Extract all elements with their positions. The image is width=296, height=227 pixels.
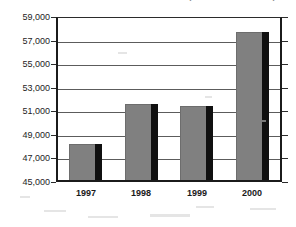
scan-artifact xyxy=(196,206,214,208)
right-axis-tick-mark xyxy=(282,41,288,42)
right-axis-tick-mark xyxy=(282,64,288,65)
y-axis-tick-label: 53,000 xyxy=(2,83,50,93)
x-axis-tick-label: 1997 xyxy=(62,188,110,198)
scan-artifact xyxy=(250,208,276,210)
scan-artifact xyxy=(205,96,212,98)
scan-artifact xyxy=(262,120,266,122)
scan-artifact xyxy=(20,196,30,198)
bar-series xyxy=(58,17,280,180)
x-axis-tick-label: 1998 xyxy=(117,188,165,198)
scan-artifact xyxy=(44,210,66,212)
y-axis-tick-mark xyxy=(51,111,56,112)
bar-face xyxy=(69,144,95,180)
y-axis-tick-mark xyxy=(51,17,56,18)
bar-chart-figure: (Million Dollars) 59,00057,00055,00053,0… xyxy=(0,0,296,227)
bar-face xyxy=(125,104,151,180)
right-axis-tick-mark xyxy=(282,111,288,112)
y-axis-tick-mark xyxy=(51,158,56,159)
y-axis-tick-mark xyxy=(51,135,56,136)
bar xyxy=(180,106,213,180)
y-axis-tick-label: 59,000 xyxy=(2,12,50,22)
y-axis-tick-label: 51,000 xyxy=(2,106,50,116)
y-axis-tick-label: 47,000 xyxy=(2,153,50,163)
x-axis: 1997199819992000 xyxy=(58,188,280,204)
y-axis-tick-mark xyxy=(51,182,56,183)
bar-shadow-edge xyxy=(95,144,102,180)
x-axis-tick-label: 1999 xyxy=(173,188,221,198)
scan-artifact xyxy=(150,214,190,217)
bar xyxy=(125,104,158,180)
y-axis-tick-label: 45,000 xyxy=(2,177,50,187)
right-axis-tick-mark xyxy=(282,158,288,159)
bar-face xyxy=(236,32,262,180)
bar xyxy=(236,32,269,180)
bar xyxy=(69,144,102,180)
y-axis-tick-label: 49,000 xyxy=(2,130,50,140)
scan-artifact xyxy=(88,216,118,218)
bar-face xyxy=(180,106,206,180)
bar-shadow-edge xyxy=(206,106,213,180)
y-axis-tick-mark xyxy=(51,41,56,42)
bar-shadow-edge xyxy=(262,32,269,180)
y-axis-tick-mark xyxy=(51,64,56,65)
y-axis-tick-mark xyxy=(51,88,56,89)
right-axis-tick-mark xyxy=(282,135,288,136)
y-axis: 59,00057,00055,00053,00051,00049,00047,0… xyxy=(0,17,50,182)
bar-shadow-edge xyxy=(151,104,158,180)
right-axis-tick-mark xyxy=(282,88,288,89)
x-axis-tick-label: 2000 xyxy=(228,188,276,198)
right-axis-tick-mark xyxy=(282,182,288,183)
scan-artifact xyxy=(118,52,127,54)
y-axis-tick-label: 57,000 xyxy=(2,36,50,46)
chart-title: (Million Dollars) xyxy=(168,0,296,3)
y-axis-tick-label: 55,000 xyxy=(2,59,50,69)
right-axis-tick-mark xyxy=(282,17,288,18)
